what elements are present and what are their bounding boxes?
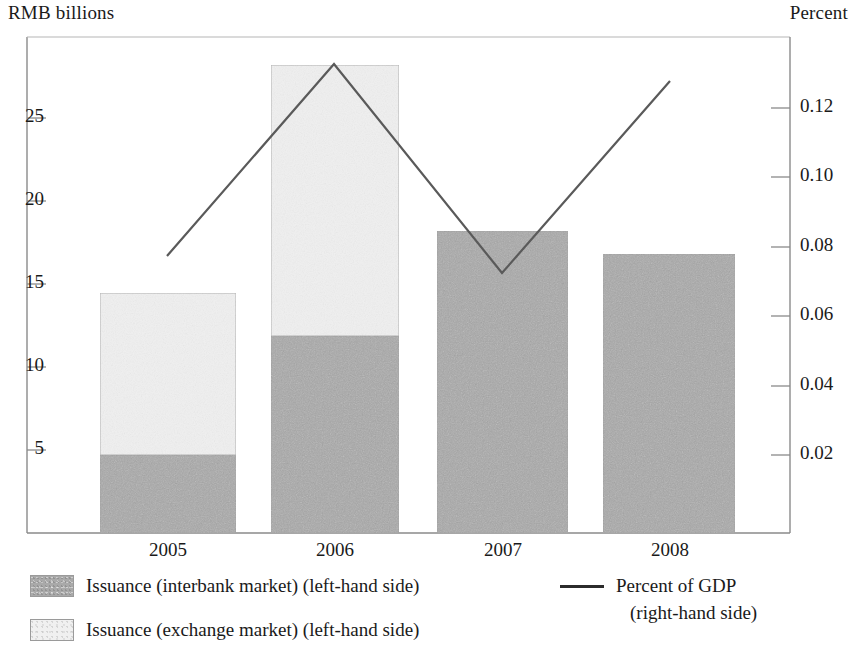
category-label-2008: 2008: [610, 539, 730, 561]
legend-label-exchange: Issuance (exchange market) (left-hand si…: [86, 616, 419, 643]
right-tick-label-002: 0.02: [800, 442, 833, 464]
left-tick-label-5: 5: [0, 437, 44, 459]
legend-label-interbank: Issuance (interbank market) (left-hand s…: [86, 572, 419, 599]
chart-figure: RMB billions Percent: [0, 0, 854, 646]
left-tick-label-20: 20: [0, 188, 44, 210]
legend-item-exchange: Issuance (exchange market) (left-hand si…: [30, 616, 419, 643]
bar-interbank-2006: [271, 336, 399, 533]
bar-interbank-2005: [100, 455, 236, 533]
bar-interbank-2008: [603, 254, 735, 533]
legend-swatch-exchange-icon: [30, 619, 74, 641]
right-axis-ticks: [771, 108, 790, 455]
right-tick-label-004: 0.04: [800, 373, 833, 395]
bar-group-2007: [437, 231, 568, 533]
legend-line-swatch-icon: [560, 575, 604, 597]
chart-legend: Issuance (interbank market) (left-hand s…: [0, 568, 854, 646]
legend-item-percent-of-gdp: Percent of GDP (right-hand side): [560, 572, 757, 626]
left-tick-label-10: 10: [0, 354, 44, 376]
bar-interbank-2007: [437, 231, 568, 533]
bar-exchange-2005: [100, 293, 236, 455]
left-tick-label-25: 25: [0, 105, 44, 127]
right-tick-label-010: 0.10: [800, 164, 833, 186]
bar-exchange-2006: [271, 65, 399, 336]
bar-group-2006: [271, 65, 399, 533]
legend-label-percent-of-gdp: Percent of GDP: [616, 575, 736, 596]
right-tick-label-008: 0.08: [800, 234, 833, 256]
bar-group-2005: [100, 293, 236, 533]
legend-sublabel-right-hand-side: (right-hand side): [616, 599, 757, 626]
category-label-2005: 2005: [108, 539, 228, 561]
right-tick-label-006: 0.06: [800, 303, 833, 325]
legend-swatch-interbank-icon: [30, 575, 74, 597]
right-tick-label-012: 0.12: [800, 95, 833, 117]
category-label-2007: 2007: [443, 539, 563, 561]
legend-item-interbank: Issuance (interbank market) (left-hand s…: [30, 572, 419, 599]
left-tick-label-15: 15: [0, 271, 44, 293]
percent-of-gdp-line: [167, 64, 670, 273]
category-label-2006: 2006: [275, 539, 395, 561]
bar-group-2008: [603, 254, 735, 533]
